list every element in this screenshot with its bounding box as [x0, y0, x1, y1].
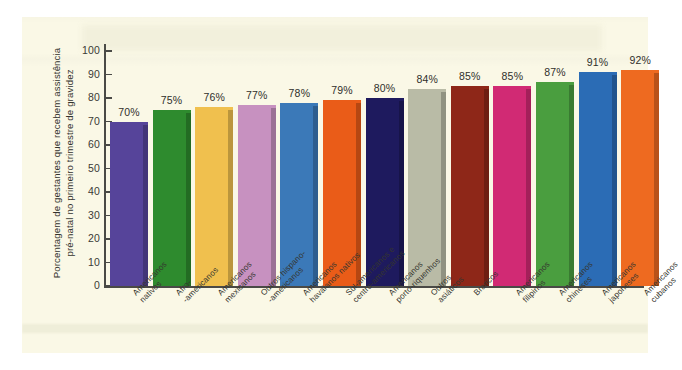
bar-shadow-edge [313, 106, 318, 286]
bar-value-label: 78% [289, 87, 311, 99]
bar-shadow-edge [186, 113, 191, 286]
bar-value-label: 77% [246, 89, 268, 101]
bar-value-label: 70% [118, 106, 140, 118]
bar-shadow-edge [612, 75, 617, 286]
bar-value-label: 79% [331, 84, 353, 96]
y-axis-tick-label: 30 [68, 209, 100, 221]
bar: 85% [451, 86, 489, 286]
y-axis-tick-label: 60 [68, 138, 100, 150]
bar-shadow-edge [143, 125, 148, 287]
bar-value-label: 85% [459, 70, 481, 82]
y-axis-tick-label: 40 [68, 185, 100, 197]
y-axis-tick-label: 90 [68, 68, 100, 80]
y-axis-line [104, 44, 106, 287]
bar-value-label: 92% [629, 54, 651, 66]
y-axis-tick [104, 97, 112, 98]
y-axis-tick [104, 50, 112, 51]
y-axis-tick-label: 70 [68, 115, 100, 127]
y-axis-tick-label: 10 [68, 256, 100, 268]
bar: 87% [536, 82, 574, 286]
y-axis-tick-label: 20 [68, 232, 100, 244]
bar-value-label: 75% [161, 94, 183, 106]
bar-value-label: 87% [544, 66, 566, 78]
y-axis-tick [104, 74, 112, 75]
bar-shadow-edge [484, 89, 489, 286]
bar: 70% [110, 122, 148, 287]
y-axis-tick-label: 50 [68, 162, 100, 174]
bar: 85% [493, 86, 531, 286]
bar-value-label: 85% [502, 70, 524, 82]
bar-shadow-edge [228, 110, 233, 286]
y-axis-tick-label: 80 [68, 91, 100, 103]
bar-shadow-edge [654, 73, 659, 286]
bar: 92% [621, 70, 659, 286]
bar: 91% [579, 72, 617, 286]
bar-value-label: 80% [374, 82, 396, 94]
bar: 75% [153, 110, 191, 286]
y-axis-tick-label: 100 [68, 44, 100, 56]
bar-shadow-edge [526, 89, 531, 286]
bar: 77% [238, 105, 276, 286]
bar-shadow-edge [271, 108, 276, 286]
bar-value-label: 84% [416, 73, 438, 85]
bar-value-label: 76% [203, 91, 225, 103]
bar-shadow-edge [569, 85, 574, 286]
bar: 76% [195, 107, 233, 286]
bar-shadow-edge [441, 92, 446, 286]
bar-value-label: 91% [587, 56, 609, 68]
y-axis-tick-label: 0 [68, 279, 100, 291]
